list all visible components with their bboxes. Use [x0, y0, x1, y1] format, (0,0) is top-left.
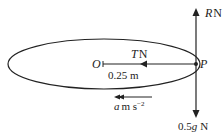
radius-label: 0.25 m: [108, 69, 139, 81]
weight-arrowhead-icon: [193, 110, 200, 118]
point-label-p: P: [199, 57, 208, 71]
tension-label: TN: [131, 47, 148, 61]
circular-motion-diagram: RN TN O P 0.25 m am s−2 0.5gN: [0, 0, 224, 135]
weight-label: 0.5gN: [178, 120, 208, 132]
tension-arrowhead-icon: [140, 61, 147, 68]
reaction-arrowhead-icon: [193, 8, 200, 16]
center-label-o: O: [92, 57, 101, 71]
reaction-label: RN: [204, 6, 222, 20]
acceleration-label: am s−2: [114, 100, 145, 112]
